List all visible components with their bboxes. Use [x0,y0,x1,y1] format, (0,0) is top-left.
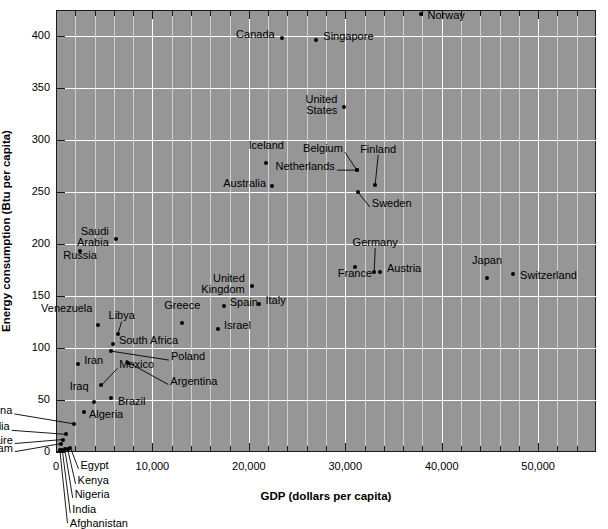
x-minor-gridline [384,10,385,452]
x-minor-gridline [500,10,501,452]
point-label: Russia [20,250,140,262]
data-point[interactable] [82,410,86,414]
label-leader-line [15,444,61,452]
y-tick-label: 100 [32,341,50,353]
x-axis-tick [152,443,153,452]
point-label: Italy [265,295,285,307]
x-axis-tick-top [500,10,501,16]
data-point[interactable] [64,432,68,436]
y-tick-label: 50 [38,393,50,405]
x-axis-tick [191,446,192,452]
x-axis-tick [133,446,134,452]
data-point[interactable] [257,302,261,306]
point-label: Sweden [372,198,412,210]
data-point[interactable] [114,237,118,241]
data-point[interactable] [419,12,423,16]
point-label: Switzerland [520,270,577,282]
data-point[interactable] [109,396,113,400]
x-axis-tick-top [577,10,578,16]
data-point[interactable] [92,400,96,404]
x-major-gridline [442,10,443,452]
x-axis-tick-top [538,10,539,19]
x-axis-tick [403,446,404,452]
x-major-gridline [538,10,539,452]
x-axis-tick-top [75,10,76,16]
x-minor-gridline [480,10,481,452]
data-point[interactable] [58,448,62,452]
data-point[interactable] [111,342,115,346]
data-point[interactable] [356,190,360,194]
x-axis-tick-top [133,10,134,16]
point-label: Afghanistan [70,518,128,529]
data-point[interactable] [216,327,220,331]
data-point[interactable] [76,362,80,366]
x-axis-tick [345,443,346,452]
y-axis-tick [56,88,65,89]
x-minor-gridline [577,10,578,452]
point-label: China [0,405,12,417]
x-axis-tick [210,446,211,452]
x-axis-tick [480,446,481,452]
data-point[interactable] [270,184,274,188]
point-label: Brazil [118,396,146,408]
x-axis-tick [287,446,288,452]
x-axis-tick-top [210,10,211,16]
x-minor-gridline [114,10,115,452]
data-point[interactable] [342,105,346,109]
x-tick-label: 20,000 [209,460,289,472]
data-point[interactable] [250,284,254,288]
x-axis-tick-top [345,10,346,19]
x-axis-tick [577,446,578,452]
x-axis-tick-top [365,10,366,16]
x-tick-label: 50,000 [498,460,578,472]
x-axis-tick [75,446,76,452]
point-label: Singapore [323,31,373,43]
point-label: South Africa [119,335,178,347]
data-point[interactable] [72,422,76,426]
y-tick-label-zero: 0 [44,445,50,457]
label-leader-line [65,449,73,498]
point-label: Iran [84,355,103,367]
data-point[interactable] [355,168,359,172]
x-axis-tick [230,446,231,452]
data-point[interactable] [99,383,103,387]
data-point[interactable] [109,349,113,353]
y-gridline [56,296,596,297]
point-label: Poland [171,351,205,363]
data-point[interactable] [280,36,284,40]
y-axis-tick [56,296,65,297]
y-axis-tick [56,348,65,349]
x-axis-tick-top [249,10,250,19]
x-axis-tick-top [287,10,288,16]
data-point[interactable] [485,276,489,280]
x-axis-tick-top [403,10,404,16]
data-point[interactable] [96,323,100,327]
point-label: Norway [428,10,465,22]
x-axis-tick-top [268,10,269,16]
x-minor-gridline [307,10,308,452]
point-label: Somalia [0,421,10,433]
y-tick-label: 250 [32,185,50,197]
x-axis-tick [268,446,269,452]
x-tick-label: 10,000 [112,460,192,472]
x-minor-gridline [519,10,520,452]
y-tick-label: 200 [32,237,50,249]
x-minor-gridline [403,10,404,452]
x-major-gridline [345,10,346,452]
x-axis-title: GDP (dollars per capita) [176,490,476,502]
y-tick-label: 350 [32,81,50,93]
x-axis-tick [172,446,173,452]
x-axis-tick [557,446,558,452]
x-axis-tick-top [230,10,231,16]
x-axis-tick-top [384,10,385,16]
y-axis-tick [56,452,65,453]
y-axis-tick [56,140,65,141]
data-point[interactable] [314,38,318,42]
data-point[interactable] [373,183,377,187]
data-point[interactable] [264,161,268,165]
x-axis-tick [326,446,327,452]
data-point[interactable] [59,442,63,446]
point-label: Germany [315,237,435,249]
data-point[interactable] [511,272,515,276]
